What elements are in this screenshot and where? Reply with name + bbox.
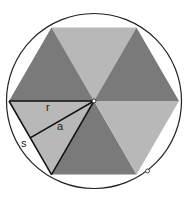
label-side: s [21,137,27,149]
label-radius: r [46,101,50,113]
center-point [92,99,96,103]
circle-handle-point [146,169,150,173]
hexagon-in-circle-diagram: r a s [0,0,195,201]
label-apothem: a [57,120,64,132]
